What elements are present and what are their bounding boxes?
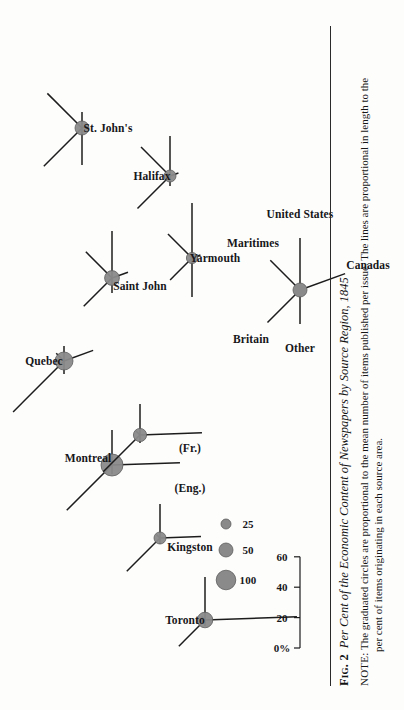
- city-group: [127, 504, 201, 571]
- figure-number: Fig. 2: [337, 648, 351, 686]
- percent-scale-bar: [294, 557, 300, 648]
- key-label-britain: Britain: [233, 334, 269, 346]
- city-label: Halifax: [133, 170, 170, 182]
- legend-circle-label: 50: [242, 544, 253, 556]
- rotated-figure-stage: St. John'sHalifaxYarmouthSaint JohnQuebe…: [0, 0, 404, 710]
- key-circle: [293, 283, 307, 297]
- ray-britain: [44, 128, 82, 166]
- note-line-2: per cent of items originating in each so…: [371, 26, 385, 686]
- key-label-other: Other: [285, 342, 315, 354]
- city-label: Montreal: [65, 452, 112, 464]
- city-group: [67, 430, 180, 510]
- legend-circle-label: 25: [242, 518, 253, 530]
- scale-tick-label: 0%: [274, 642, 291, 654]
- key-label-united-states: United States: [267, 208, 334, 220]
- city-group: [84, 231, 128, 306]
- legend-circle: [221, 519, 231, 529]
- circle-legend: [216, 519, 236, 590]
- figure-title: Per Cent of the Economic Content of News…: [337, 277, 351, 648]
- note-line-1: The graduated circles are proportional t…: [358, 78, 370, 650]
- city-label: Yarmouth: [190, 252, 241, 264]
- figure-caption: Fig. 2Per Cent of the Economic Content o…: [330, 26, 385, 686]
- city-label: Saint John: [113, 280, 167, 292]
- caption-rule: [330, 26, 331, 686]
- graduated-circle: [154, 532, 166, 544]
- city-group: [168, 203, 200, 297]
- ray-britain: [13, 361, 64, 412]
- scale-tick-label: 60: [276, 551, 287, 563]
- legend-circle: [219, 543, 233, 557]
- city-label: (Fr.): [179, 442, 201, 454]
- figure-page: St. John'sHalifaxYarmouthSaint JohnQuebe…: [0, 0, 404, 710]
- city-label: Quebec: [25, 355, 63, 367]
- figure-note: NOTE: The graduated circles are proporti…: [357, 26, 386, 686]
- city-label: (Eng.): [175, 482, 206, 494]
- scale-tick-label: 20: [276, 612, 287, 624]
- note-label: NOTE:: [358, 653, 370, 686]
- key-label-maritimes: Maritimes: [227, 237, 279, 249]
- scale-tick-label: 40: [276, 581, 287, 593]
- city-group: [44, 93, 89, 166]
- city-label: Kingston: [167, 541, 213, 553]
- ray-britain: [127, 538, 160, 571]
- graduated-circle: [133, 428, 146, 441]
- legend-circle: [216, 570, 236, 590]
- city-label: Toronto: [165, 614, 205, 626]
- caption-title-line: Fig. 2Per Cent of the Economic Content o…: [337, 26, 353, 686]
- ray-canadas: [140, 433, 202, 435]
- city-label: St. John's: [84, 122, 133, 134]
- legend-circle-label: 100: [240, 574, 257, 586]
